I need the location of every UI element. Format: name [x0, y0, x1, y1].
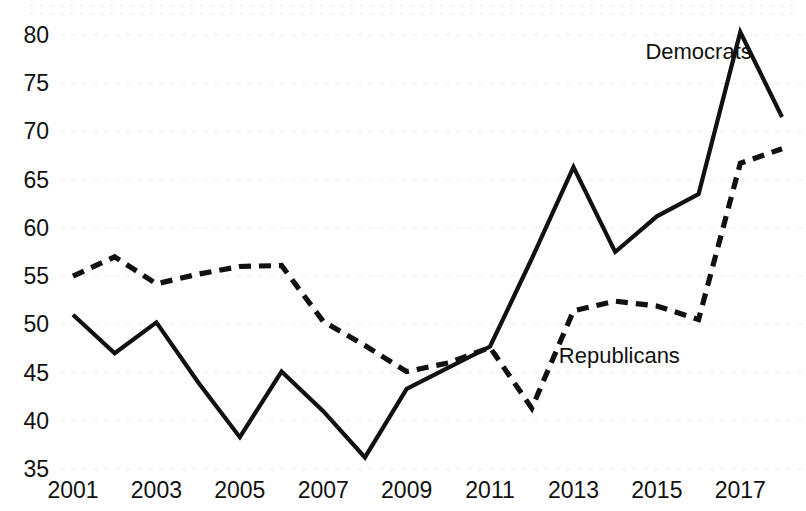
- y-tick-label: 45: [23, 360, 49, 386]
- chart-canvas: 35404550556065707580 2001200320052007200…: [0, 0, 806, 511]
- series-label-republicans: Republicans: [559, 343, 680, 368]
- y-tick-label: 75: [23, 70, 49, 96]
- y-tick-label: 55: [23, 263, 49, 289]
- line-chart: 35404550556065707580 2001200320052007200…: [0, 0, 806, 511]
- y-tick-label: 80: [23, 22, 49, 48]
- series-line-democrats: [73, 32, 782, 457]
- y-tick-label: 50: [23, 311, 49, 337]
- x-tick-label: 2007: [298, 477, 349, 503]
- x-tick-label: 2001: [47, 477, 98, 503]
- gridlines: [60, 35, 806, 469]
- series-paths: [73, 32, 782, 457]
- x-tick-label: 2011: [465, 477, 514, 503]
- series-line-republicans: [73, 149, 782, 408]
- x-tick-label: 2013: [548, 477, 599, 503]
- x-tick-label: 2015: [631, 477, 682, 503]
- y-tick-label: 70: [23, 118, 49, 144]
- series-annotations: DemocratsRepublicans: [559, 39, 752, 368]
- x-tick-label: 2009: [381, 477, 432, 503]
- x-tick-label: 2005: [214, 477, 265, 503]
- y-tick-label: 60: [23, 215, 49, 241]
- x-tick-label: 2003: [131, 477, 182, 503]
- series-label-democrats: Democrats: [645, 39, 751, 64]
- y-tick-label: 40: [23, 408, 49, 434]
- y-tick-label: 35: [23, 456, 49, 482]
- x-axis-tick-labels: 200120032005200720092011201320152017: [47, 477, 765, 503]
- x-tick-label: 2017: [715, 477, 766, 503]
- top-edge-artifacts: [30, 6, 800, 14]
- y-axis-tick-labels: 35404550556065707580: [23, 22, 49, 482]
- y-tick-label: 65: [23, 167, 49, 193]
